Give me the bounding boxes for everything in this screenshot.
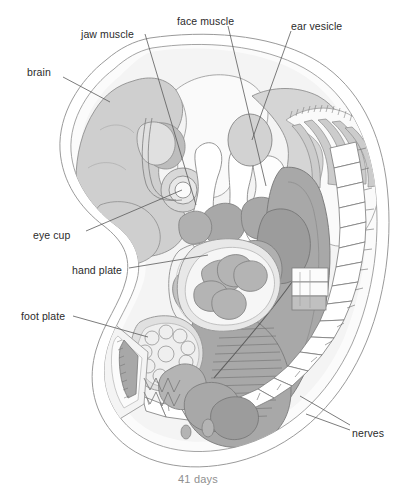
figure-caption: 41 days [178,473,218,485]
mesonephros-region [292,268,328,310]
label-eye-cup: eye cup [33,229,70,241]
label-brain: brain [27,66,51,78]
label-face-muscle: face muscle [177,15,234,27]
label-jaw-muscle: jaw muscle [81,28,134,40]
label-nerves: nerves [352,427,384,439]
label-hand-plate: hand plate [72,264,122,276]
embryo-illustration [0,0,403,496]
embryo-figure: brain jaw muscle face muscle ear vesicle… [0,0,403,496]
leader-nerves-b [306,414,350,430]
ear-vesicle-region [228,114,272,166]
label-ear-vesicle: ear vesicle [291,20,342,32]
label-foot-plate: foot plate [21,310,65,322]
